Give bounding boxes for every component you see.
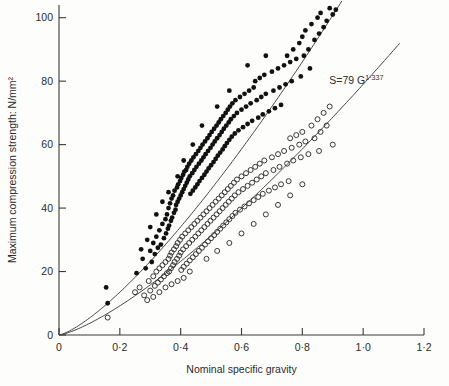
data-point-filled [318, 11, 323, 16]
data-point-open [256, 194, 261, 199]
data-point-open [286, 179, 291, 184]
data-point-filled [288, 60, 293, 65]
lower-fitted-curve [59, 43, 400, 335]
fitted-curves-group [59, 1, 400, 335]
y-tick-label-20: 20 [41, 265, 53, 277]
x-axis-ticks: 00·20·40·60·81·01·2 [56, 328, 432, 353]
data-point-open [282, 148, 287, 153]
x-tick-label-5: 1·0 [356, 341, 371, 353]
data-point-filled [263, 91, 268, 96]
data-point-filled [263, 53, 268, 58]
data-point-open [229, 196, 234, 201]
data-point-open [251, 221, 256, 226]
data-point-open [184, 261, 189, 266]
data-point-open [142, 293, 147, 298]
data-point-filled [297, 41, 302, 46]
data-point-open [300, 129, 305, 134]
data-point-open [189, 225, 194, 230]
data-point-open [294, 133, 299, 138]
data-point-filled [256, 115, 261, 120]
data-point-filled [134, 271, 139, 276]
data-point-filled [309, 22, 314, 27]
data-point-open [227, 240, 232, 245]
data-point-open [201, 212, 206, 217]
axes-group [59, 5, 424, 335]
data-point-filled [233, 98, 238, 103]
data-point-filled [239, 107, 244, 112]
data-point-open [151, 274, 156, 279]
data-point-open [204, 256, 209, 261]
data-point-open [277, 164, 282, 169]
data-point-open [262, 158, 267, 163]
data-point-open [158, 277, 163, 282]
data-point-open [199, 228, 204, 233]
data-point-filled [162, 236, 167, 241]
data-point-open [157, 290, 162, 295]
data-point-filled [157, 228, 162, 233]
data-point-open [205, 221, 210, 226]
data-point-filled [242, 91, 247, 96]
data-point-open [163, 260, 168, 265]
data-point-filled [227, 88, 232, 93]
data-point-open [260, 191, 265, 196]
data-point-open [300, 182, 305, 187]
data-point-filled [259, 95, 264, 100]
data-point-open [148, 288, 153, 293]
data-point-open [225, 187, 230, 192]
data-point-open [231, 180, 236, 185]
data-point-open [157, 266, 162, 271]
data-point-open [198, 215, 203, 220]
data-point-filled [245, 63, 250, 68]
data-point-filled [244, 104, 249, 109]
data-point-filled [170, 215, 175, 220]
data-point-open [298, 155, 303, 160]
data-point-open [145, 298, 150, 303]
data-point-filled [181, 158, 186, 163]
data-point-open [271, 168, 276, 173]
data-point-open [257, 161, 262, 166]
data-point-filled [154, 234, 159, 239]
data-point-open [266, 188, 271, 193]
data-point-filled [105, 301, 110, 306]
data-point-filled [291, 47, 296, 52]
data-point-open [133, 290, 138, 295]
data-point-open [288, 136, 293, 141]
data-point-open [245, 183, 250, 188]
data-point-filled [160, 199, 165, 204]
data-point-filled [262, 72, 267, 77]
data-point-open [187, 269, 192, 274]
data-point-filled [282, 63, 287, 68]
data-point-filled [241, 125, 246, 130]
data-point-filled [190, 142, 195, 147]
data-point-filled [235, 110, 240, 115]
x-axis-title: Nominal specific gravity [186, 363, 297, 375]
data-point-filled [289, 79, 294, 84]
data-point-open [220, 206, 225, 211]
chart-figure: 020406080100 00·20·40·60·81·01·2 Nominal… [0, 0, 449, 386]
data-point-open [151, 294, 156, 299]
data-point-open [276, 152, 281, 157]
data-point-open [105, 315, 110, 320]
upper-fitted-curve [59, 1, 342, 335]
data-point-filled [163, 217, 168, 222]
data-point-open [269, 155, 274, 160]
data-point-open [213, 199, 218, 204]
data-point-filled [175, 174, 180, 179]
data-point-open [196, 248, 201, 253]
data-point-open [276, 202, 281, 207]
data-point-open [244, 171, 249, 176]
data-point-filled [247, 88, 252, 93]
y-axis-title: Maximum compression strength: N/mm² [6, 76, 18, 263]
data-point-open [155, 280, 160, 285]
data-point-filled [277, 85, 282, 90]
data-point-filled [257, 76, 262, 81]
data-point-open [190, 237, 195, 242]
data-point-open [209, 236, 214, 241]
x-tick-label-4: 0·8 [295, 341, 310, 353]
data-point-open [226, 199, 231, 204]
data-point-open [154, 269, 159, 274]
data-point-filled [312, 38, 317, 43]
data-point-open [183, 231, 188, 236]
data-point-open [309, 123, 314, 128]
y-tick-label-0: 0 [47, 329, 53, 341]
